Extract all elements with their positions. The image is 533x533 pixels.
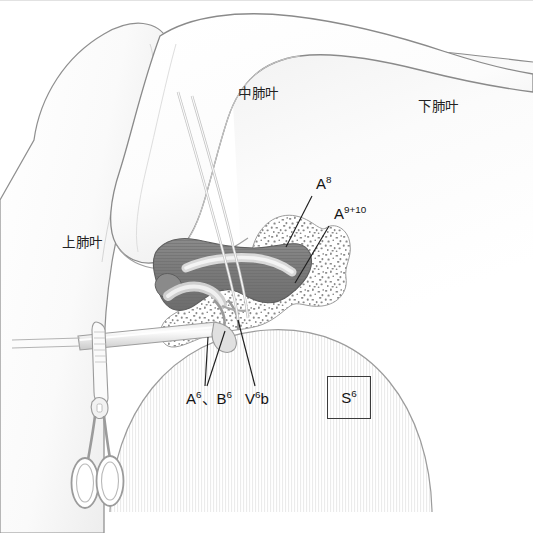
s6-segment-shape (100, 320, 450, 520)
label-a9-10-text: A (334, 205, 344, 222)
label-v6b-tail: b (261, 390, 269, 407)
label-a9-10-superscript: 9+10 (344, 204, 366, 215)
label-b6-text: 、B (202, 390, 227, 407)
label-a6-b6: A6、B6 (186, 391, 232, 406)
label-s6: S6 (341, 389, 357, 406)
label-v6b-text: V (245, 390, 255, 407)
label-b6-superscript: 6 (227, 389, 233, 400)
anatomy-drawing (0, 0, 533, 533)
label-lower-lobe: 下肺叶 (418, 100, 459, 114)
s6-legend-box: S6 (327, 376, 371, 419)
label-a8: A8 (316, 176, 332, 191)
label-s6-superscript: 6 (351, 388, 357, 399)
illustration-canvas: 上肺叶 中肺叶 下肺叶 A8 A9+10 A6、B6 V6b S6 (0, 0, 533, 533)
label-s6-text: S (341, 389, 351, 406)
label-a9-10: A9+10 (334, 206, 366, 221)
label-v6b: V6b (245, 391, 269, 406)
label-a8-text: A (316, 175, 326, 192)
label-upper-lobe: 上肺叶 (62, 236, 103, 250)
label-a8-superscript: 8 (326, 174, 332, 185)
label-a6-text: A (186, 390, 196, 407)
label-middle-lobe: 中肺叶 (238, 87, 279, 101)
